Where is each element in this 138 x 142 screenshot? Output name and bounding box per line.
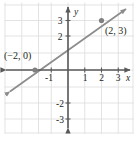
point-label-left: (−2, 0) [4, 50, 31, 62]
y-tick-label-neg2: -2 [56, 99, 64, 109]
y-tick-label-2: 2 [58, 32, 63, 42]
x-axis-label: x [125, 73, 131, 83]
x-tick-label-3: 3 [116, 73, 121, 83]
point-marker-left [32, 67, 37, 72]
y-tick-label-neg3: -3 [56, 115, 64, 125]
x-tick-label-1: 1 [83, 73, 88, 83]
x-tick-label-2: 2 [99, 73, 104, 83]
point-label-right: (2, 3) [105, 25, 127, 37]
graph-canvas: -1 1 2 3 3 2 -2 -3 x y (−2, 0) (2, 3) [0, 0, 138, 142]
y-tick-label-3: 3 [58, 16, 63, 26]
grid-lines [5, 3, 134, 134]
y-axis-label: y [73, 7, 79, 17]
point-marker-right [99, 18, 104, 23]
coordinate-graph-figure: -1 1 2 3 3 2 -2 -3 x y (−2, 0) (2, 3) [0, 0, 138, 142]
x-tick-label-neg1: -1 [45, 73, 53, 83]
